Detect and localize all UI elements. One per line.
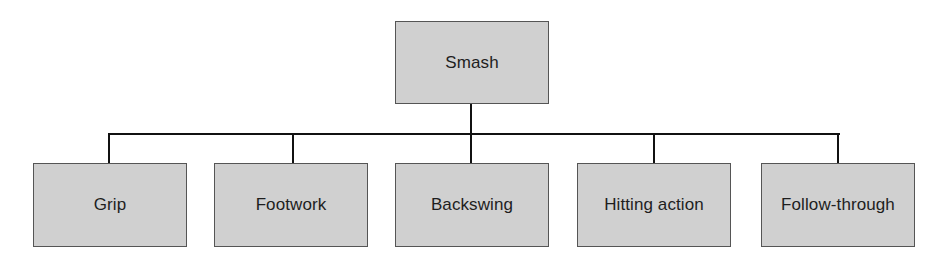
root-node-smash: Smash [395,21,549,104]
root-connector [470,104,472,134]
connector-backswing [470,133,472,163]
child-node-hitting-action: Hitting action [577,163,731,247]
connector-footwork [292,133,294,163]
child-node-label: Footwork [256,195,327,215]
child-node-label: Hitting action [604,195,704,215]
child-node-footwork: Footwork [214,163,368,247]
child-node-grip: Grip [33,163,187,247]
child-node-follow-through: Follow-through [761,163,915,247]
child-node-label: Grip [94,195,127,215]
diagram-canvas: Smash Grip Footwork Backswing Hitting ac… [0,0,952,261]
horizontal-connector [108,133,840,135]
connector-grip [108,133,110,163]
root-node-label: Smash [445,53,498,73]
connector-hitting-action [653,133,655,163]
child-node-label: Follow-through [781,195,895,215]
child-node-label: Backswing [431,195,513,215]
child-node-backswing: Backswing [395,163,549,247]
connector-follow-through [837,133,839,163]
